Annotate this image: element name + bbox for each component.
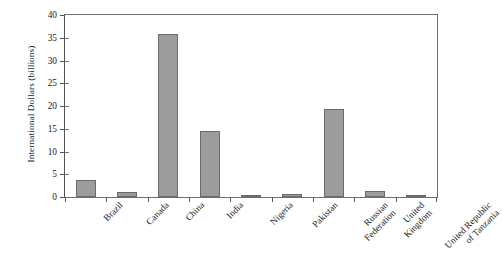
bar-slot xyxy=(65,15,106,197)
bar xyxy=(117,192,137,197)
x-axis-category-label-line: Pakistan xyxy=(311,200,341,230)
y-axis-tick-label: 15 xyxy=(48,125,57,134)
x-axis-category-labels: BrazilCanadaChinaIndiaNigeriaPakistanRus… xyxy=(64,200,438,267)
x-axis-category-label: United Republicof Tanzania xyxy=(443,200,502,259)
y-axis-tick-label: 10 xyxy=(48,148,57,157)
y-axis-tick-label: 25 xyxy=(48,80,57,89)
x-axis-category-label: Brazil xyxy=(101,200,125,224)
bar-slot xyxy=(148,15,189,197)
x-axis-category-label: Nigeria xyxy=(268,200,295,227)
x-axis-category-label: Pakistan xyxy=(311,200,341,230)
bar-series xyxy=(65,15,437,197)
y-axis-tick-label: 35 xyxy=(48,34,57,43)
x-axis-category-label-line: Brazil xyxy=(101,200,125,224)
y-axis-tick-label: 0 xyxy=(52,193,57,202)
bar-slot xyxy=(106,15,147,197)
bar xyxy=(200,131,220,197)
bar xyxy=(365,191,385,197)
bar-slot xyxy=(272,15,313,197)
x-axis-category-label: China xyxy=(184,200,207,223)
bar xyxy=(282,194,302,197)
y-axis-title: International Dollars (billions) xyxy=(24,4,38,204)
x-axis-category-label: Canada xyxy=(144,200,171,227)
bar-slot xyxy=(189,15,230,197)
bar-slot xyxy=(313,15,354,197)
plot-area: 0510152025303540 xyxy=(64,14,438,198)
x-axis-category-label-line: India xyxy=(224,200,245,221)
bar xyxy=(158,34,178,197)
x-axis-category-label: RussianFederation xyxy=(354,200,398,244)
x-axis-category-label-line: China xyxy=(184,200,207,223)
bar-slot xyxy=(396,15,437,197)
y-axis-tick-label: 20 xyxy=(48,102,57,111)
x-axis-category-label: UnitedKingdom xyxy=(394,200,434,240)
bar-slot xyxy=(354,15,395,197)
bar xyxy=(406,195,426,197)
x-axis-category-label-line: Nigeria xyxy=(268,200,295,227)
bar xyxy=(324,109,344,197)
y-axis-tick-label: 30 xyxy=(48,57,57,66)
bar xyxy=(76,180,96,197)
y-axis-tick-label: 40 xyxy=(48,11,57,20)
x-axis-category-label: India xyxy=(224,200,245,221)
x-axis-category-label-line: Canada xyxy=(144,200,171,227)
bar xyxy=(241,195,261,197)
bar-slot xyxy=(230,15,271,197)
y-axis-tick-label: 5 xyxy=(52,171,57,180)
